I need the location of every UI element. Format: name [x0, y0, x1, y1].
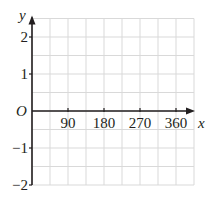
- origin-label: O: [16, 103, 27, 119]
- x-tick-label: 90: [61, 115, 76, 131]
- y-axis-label: y: [17, 7, 26, 23]
- grid-lines: [32, 19, 194, 186]
- y-tick-label: 2: [21, 29, 29, 45]
- y-tick-label: −1: [12, 140, 28, 156]
- y-axis-arrow-icon: [29, 16, 36, 25]
- x-tick-label: 360: [165, 115, 188, 131]
- x-tick-label: 270: [129, 115, 152, 131]
- y-tick-label: −2: [12, 177, 28, 193]
- x-axis-label: x: [197, 115, 205, 131]
- axes: [29, 16, 196, 186]
- x-tick-label: 180: [93, 115, 116, 131]
- empty-coordinate-grid-chart: x y O 9018027036021−1−2: [0, 0, 210, 206]
- y-tick-label: 1: [21, 66, 29, 82]
